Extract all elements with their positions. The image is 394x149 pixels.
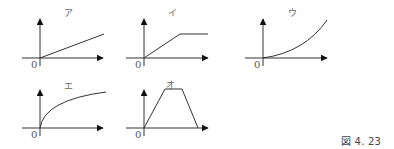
graph-label: ウ — [288, 8, 297, 18]
graph-curve — [40, 34, 104, 58]
origin-label: 0 — [135, 59, 141, 70]
graph-curve — [263, 20, 327, 58]
graph-o: オ 0 — [126, 80, 208, 140]
graph-u: ウ 0 — [245, 8, 327, 70]
figure-caption: 図 4. 23 — [341, 133, 381, 148]
figure-canvas: ア 0 イ 0 ウ 0 エ 0 オ 0 — [0, 0, 394, 149]
graph-label: ア — [64, 8, 73, 18]
graph-curve — [144, 89, 198, 128]
graph-i: イ 0 — [126, 8, 208, 70]
origin-label: 0 — [135, 129, 141, 140]
graph-e: エ 0 — [22, 81, 106, 140]
origin-label: 0 — [31, 129, 37, 140]
origin-label: 0 — [31, 59, 37, 70]
graph-curve — [144, 34, 208, 58]
graph-label: オ — [166, 80, 175, 90]
graph-a: ア 0 — [22, 8, 104, 70]
graph-label: エ — [64, 81, 73, 91]
graph-label: イ — [168, 8, 177, 18]
origin-label: 0 — [254, 59, 260, 70]
graph-curve — [40, 92, 106, 128]
